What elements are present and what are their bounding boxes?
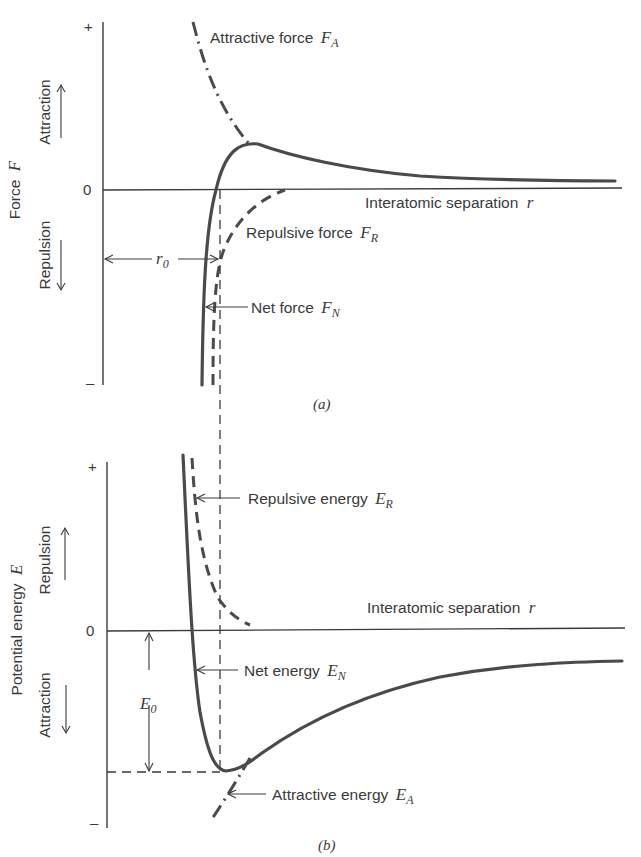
svg-text:Repulsion: Repulsion <box>36 526 53 595</box>
force-repulsion-label: Repulsion <box>36 221 53 290</box>
net-force-curve <box>202 144 615 385</box>
energy-tick-plus: + <box>88 458 97 475</box>
svg-text:Attraction: Attraction <box>36 79 53 144</box>
energy-attraction-label: Attraction <box>36 672 53 737</box>
svg-text:Repulsion: Repulsion <box>36 221 53 290</box>
repulsive-force-curve <box>213 190 285 385</box>
force-tick-plus: + <box>84 18 93 35</box>
e0-dimension: E0 <box>139 633 156 771</box>
energy-x-axis <box>107 628 625 631</box>
energy-repulsion-label: Repulsion <box>36 526 53 595</box>
net-force-leader <box>206 303 248 311</box>
force-x-axis-title: Interatomic separation r <box>365 193 534 212</box>
repulsive-energy-label: Repulsive energy ER <box>248 489 394 511</box>
r0-label: r0 <box>156 249 169 271</box>
net-energy-label: Net energy EN <box>244 661 347 683</box>
attractive-force-label: Attractive force FA <box>210 28 339 50</box>
attractive-energy-label: Attractive energy EA <box>272 785 414 807</box>
attractive-energy-curve <box>210 758 250 822</box>
e0-label: E0 <box>139 694 156 716</box>
energy-tick-minus: – <box>90 814 99 831</box>
force-attraction-label: Attraction <box>36 79 53 144</box>
net-energy-leader <box>197 666 238 674</box>
energy-tick-zero: 0 <box>86 622 94 639</box>
svg-text:Potential energy E: Potential energy E <box>7 564 26 695</box>
force-attraction-arrow-icon <box>57 85 65 138</box>
svg-text:Attraction: Attraction <box>36 672 53 737</box>
svg-text:Force F: Force F <box>5 160 24 219</box>
energy-x-axis-title: Interatomic separation r <box>367 598 536 617</box>
energy-attraction-arrow-icon <box>62 685 70 733</box>
force-axis-title: Force F <box>5 160 24 219</box>
force-tick-zero: 0 <box>83 181 91 198</box>
panel-a-caption: (a) <box>313 396 331 413</box>
panel-b-energy: + 0 – Potential energy E Repulsion Attra… <box>7 455 625 854</box>
interatomic-force-energy-diagram: + 0 – Force F Attraction Repulsion <box>0 0 641 857</box>
force-tick-minus: – <box>86 374 95 391</box>
repulsive-energy-curve <box>192 458 250 625</box>
force-x-axis <box>103 188 622 190</box>
repulsive-energy-leader <box>197 494 240 502</box>
energy-repulsion-arrow-icon <box>61 528 69 580</box>
energy-axis-title: Potential energy E <box>7 564 26 695</box>
r0-dimension: r0 <box>105 249 218 271</box>
repulsive-force-label: Repulsive force FR <box>246 223 379 245</box>
force-repulsion-arrow-icon <box>57 240 65 290</box>
attractive-energy-leader <box>228 790 266 798</box>
panel-a-force: + 0 – Force F Attraction Repulsion <box>5 18 622 772</box>
panel-b-caption: (b) <box>318 837 336 854</box>
net-force-label: Net force FN <box>251 298 341 320</box>
